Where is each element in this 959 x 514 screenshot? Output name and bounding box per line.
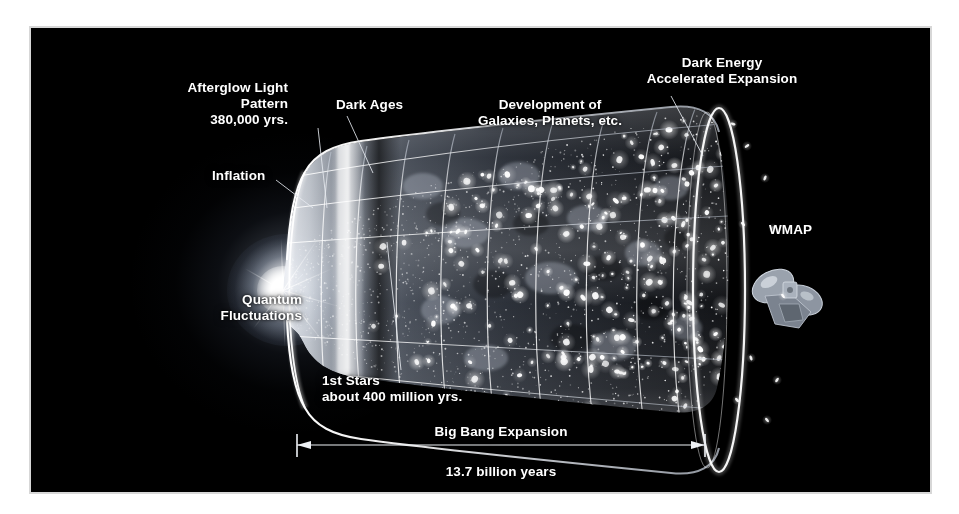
- label-quantum-fluctuations: Quantum Fluctuations: [221, 292, 302, 324]
- scale-bar-right-arrowhead: [691, 441, 705, 449]
- label-big-bang-expansion: Big Bang Expansion: [401, 424, 601, 440]
- scale-bar-left-arrowhead: [297, 441, 311, 449]
- label-development-of-galaxies: Development of Galaxies, Planets, etc.: [450, 97, 650, 129]
- label-inflation: Inflation: [212, 168, 265, 184]
- label-universe-age: 13.7 billion years: [401, 464, 601, 480]
- figure-black-plate: Afterglow Light Pattern 380,000 yrs. Dar…: [31, 28, 930, 492]
- label-afterglow-light-pattern: Afterglow Light Pattern 380,000 yrs.: [188, 80, 288, 128]
- label-wmap: WMAP: [769, 222, 812, 238]
- label-dark-ages: Dark Ages: [336, 97, 403, 113]
- universe-timeline-figure: Afterglow Light Pattern 380,000 yrs. Dar…: [0, 0, 959, 514]
- label-dark-energy-accelerated-expansion: Dark Energy Accelerated Expansion: [591, 55, 853, 87]
- label-first-stars: 1st Stars about 400 million yrs.: [322, 373, 462, 405]
